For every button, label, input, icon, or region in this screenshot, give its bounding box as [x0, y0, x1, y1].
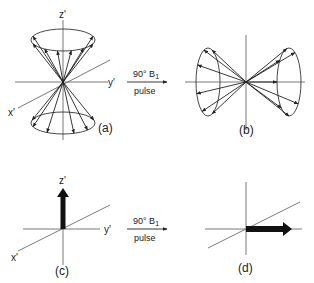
net-magnetization-vector [61, 196, 66, 229]
panel-label-c: (c) [55, 264, 69, 278]
spin-vector [212, 82, 246, 114]
spin-vector [204, 50, 246, 82]
magnetization-arrowhead [283, 222, 292, 236]
spin-vector [202, 82, 246, 111]
spin-vector [63, 82, 94, 120]
panel-d: (d) [205, 182, 302, 275]
nmr-pulse-diagram: z' y' x' (a) 90° B1 pulse (b) z' y' x' (… [0, 0, 314, 283]
spin-vector [246, 60, 280, 82]
spin-vector [198, 65, 246, 82]
panel-a: z' y' x' (a) [8, 9, 115, 140]
pulse-angle-label: 90° B1 [133, 69, 159, 80]
pulse-transition-2: 90° B1 pulse [127, 216, 167, 243]
net-magnetization-vector [246, 226, 284, 232]
spin-vector [32, 82, 63, 120]
x-axis-label: x' [8, 107, 15, 118]
spin-vector [47, 82, 63, 133]
spin-vector [63, 82, 88, 130]
panel-label-d: (d) [238, 261, 253, 275]
panel-label-b: (b) [239, 123, 254, 137]
magnetization-arrowhead [57, 188, 69, 197]
panel-c: z' y' x' (c) [11, 175, 111, 278]
x-axis-label: x' [11, 252, 18, 263]
spin-vector [246, 49, 287, 82]
y-axis-label: y' [108, 77, 115, 88]
panel-b: (b) [185, 35, 305, 137]
spin-vector [246, 82, 298, 104]
z-axis-label: z' [59, 9, 66, 20]
spin-vector [246, 82, 289, 116]
pulse-transition-1: 90° B1 pulse [127, 69, 167, 96]
spin-vector [197, 82, 246, 94]
panel-label-a: (a) [98, 121, 113, 135]
y-axis-label: y' [104, 224, 111, 235]
spin-vector [33, 82, 63, 127]
spin-vector [63, 82, 74, 133]
pulse-label: pulse [134, 233, 156, 243]
pulse-label: pulse [134, 86, 156, 96]
pulse-angle-label: 90° B1 [133, 216, 159, 227]
z-axis-label: z' [59, 175, 66, 186]
spin-vector [63, 36, 93, 82]
spin-vector [212, 50, 246, 82]
